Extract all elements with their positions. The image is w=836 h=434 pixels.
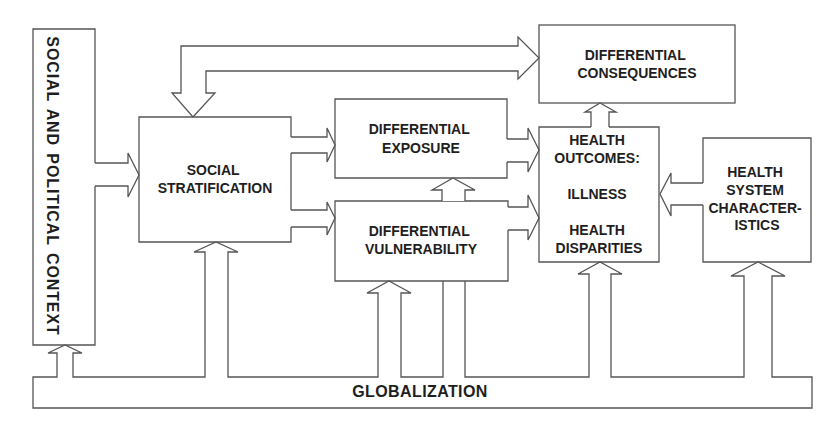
globalization-label: GLOBALIZATION: [352, 383, 488, 400]
node-differential-vulnerability: DIFFERENTIAL VULNERABILITY: [335, 201, 508, 281]
label-line: ILLNESS: [567, 186, 626, 202]
label-line: ISTICS: [734, 217, 779, 233]
label-line: DISPARITIES: [556, 240, 643, 256]
arrow-feedback-stratification-consequences: [172, 37, 539, 117]
label-line: STRATIFICATION: [158, 180, 273, 196]
node-social-stratification: SOCIAL STRATIFICATION: [139, 117, 291, 242]
label-line: SYSTEM: [726, 182, 784, 198]
arrow-stratification-to-exposure: [291, 128, 335, 162]
arrow-vulnerability-to-outcomes: [508, 195, 539, 240]
label-line: HEALTH: [569, 222, 625, 238]
label-line: DIFFERENTIAL: [369, 121, 471, 137]
node-health-outcomes: HEALTH OUTCOMES: ILLNESS HEALTH DISPARIT…: [539, 127, 659, 262]
social-political-context-label: SOCIAL AND POLITICAL CONTEXT: [44, 36, 61, 335]
node-differential-consequences: DIFFERENTIAL CONSEQUENCES: [539, 25, 735, 103]
differential-consequences-box: [539, 25, 735, 103]
label-line: CHARACTER-: [708, 200, 802, 216]
label-line: EXPOSURE: [382, 140, 460, 156]
differential-consequences-label: DIFFERENTIAL CONSEQUENCES: [577, 47, 696, 81]
arrow-context-to-stratification: [95, 153, 139, 197]
label-line: HEALTH: [727, 164, 783, 180]
node-differential-exposure: DIFFERENTIAL EXPOSURE: [335, 99, 507, 178]
social-stratification-label: SOCIAL STRATIFICATION: [158, 162, 273, 196]
label-line: HEALTH: [569, 132, 625, 148]
arrow-system-to-outcomes: [660, 173, 703, 216]
differential-vulnerability-label: DIFFERENTIAL VULNERABILITY: [365, 223, 478, 257]
label-line: VULNERABILITY: [365, 241, 478, 257]
health-outcomes-label: HEALTH OUTCOMES: ILLNESS HEALTH DISPARIT…: [554, 132, 643, 256]
social-political-context-box: [33, 29, 95, 345]
label-line: SOCIAL: [187, 162, 240, 178]
node-social-political-context: SOCIAL AND POLITICAL CONTEXT: [33, 29, 95, 345]
node-health-system-characteristics: HEALTH SYSTEM CHARACTER- ISTICS: [703, 138, 811, 262]
label-line: DIFFERENTIAL: [585, 47, 687, 63]
arrow-exposure-to-outcomes: [507, 128, 539, 172]
health-system-label: HEALTH SYSTEM CHARACTER- ISTICS: [708, 164, 805, 233]
arrow-outcomes-to-consequences: [585, 103, 616, 127]
differential-exposure-label: DIFFERENTIAL EXPOSURE: [369, 121, 474, 156]
label-line: OUTCOMES:: [554, 150, 640, 166]
node-globalization: GLOBALIZATION: [33, 242, 812, 408]
differential-exposure-box: [335, 99, 507, 178]
label-line: DIFFERENTIAL: [369, 223, 471, 239]
arrow-vulnerability-to-exposure: [432, 178, 475, 201]
label-line: CONSEQUENCES: [577, 65, 696, 81]
arrow-stratification-to-vulnerability: [291, 202, 335, 235]
health-disparities-diagram: SOCIAL AND POLITICAL CONTEXT SOCIAL STRA…: [0, 0, 836, 434]
